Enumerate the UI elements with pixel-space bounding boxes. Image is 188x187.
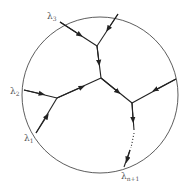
label-lambda-n-plus-1: λn+1: [121, 171, 139, 182]
label-lambda1: λ1: [24, 133, 34, 144]
label-lambda3: λ3: [47, 11, 57, 22]
edges: [24, 14, 176, 167]
label-lambda2: λ2: [10, 86, 20, 97]
tree-diagram: λ3 λ2 λ1 λn+1: [0, 0, 188, 187]
